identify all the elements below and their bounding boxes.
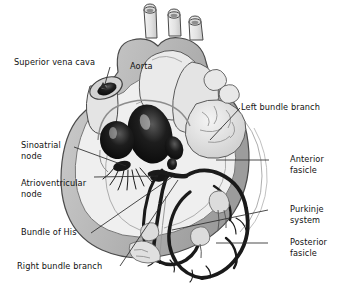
label-anterior-fasicle-line1: Anterior: [290, 154, 324, 164]
left-carotid-bore-icon: [171, 14, 178, 17]
label-atrioventricular-node-line1: Atrioventricular: [21, 178, 86, 188]
papillary-muscle-1: [209, 191, 229, 213]
label-purkinje-system-line2: system: [290, 215, 320, 225]
label-posterior-fasicle-line2: fasicle: [290, 248, 317, 258]
subclavian-bore-icon: [192, 21, 199, 24]
heart-conduction-diagram: Superior vena cava Aorta Sinoatrial node…: [0, 0, 339, 308]
right-atrium-highlight: [109, 127, 117, 139]
label-anterior-fasicle-line2: fasicle: [290, 165, 317, 175]
brachiocephalic-bore-icon: [147, 9, 154, 12]
outflow-cavity-small: [167, 158, 177, 170]
label-atrioventricular-node-line2: node: [21, 189, 42, 199]
label-bundle-of-his: Bundle of His: [21, 227, 77, 237]
label-right-bundle-branch: Right bundle branch: [17, 261, 102, 271]
label-posterior-fasicle-line1: Posterior: [290, 237, 327, 247]
label-purkinje-system-line1: Purkinje: [290, 204, 324, 214]
great-vessels-group: [144, 4, 203, 40]
label-left-bundle-branch: Left bundle branch: [241, 102, 320, 112]
papillary-muscle-2: [191, 227, 210, 246]
label-sinoatrial-node-line1: Sinoatrial: [21, 140, 61, 150]
label-superior-vena-cava: Superior vena cava: [14, 57, 95, 67]
right-appendage-lobe-2: [219, 85, 239, 104]
label-sinoatrial-node-line2: node: [21, 151, 42, 161]
atrial-appendage-group: [185, 100, 245, 158]
label-aorta: Aorta: [130, 61, 153, 71]
